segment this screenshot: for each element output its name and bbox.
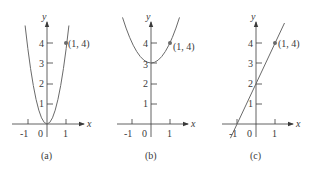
panel-caption: (c) — [250, 150, 261, 162]
y-tick-label: 1 — [248, 98, 253, 109]
y-tick-label: 3 — [248, 58, 253, 69]
x-tick-label: -1 — [229, 128, 237, 139]
y-tick-label: 1 — [143, 98, 148, 109]
y-tick-label: 2 — [39, 78, 44, 89]
x-axis-label: x — [295, 118, 301, 129]
panel-caption: (b) — [145, 150, 157, 162]
y-tick-label: 3 — [39, 58, 44, 69]
y-tick-label: 4 — [143, 38, 148, 49]
x-axis-label: x — [86, 118, 92, 129]
point-marker — [168, 41, 172, 45]
point-label: (1, 4) — [68, 38, 90, 50]
y-tick-label: 2 — [143, 78, 148, 89]
y-tick-label: 4 — [248, 38, 253, 49]
x-tick-label: 1 — [272, 128, 277, 139]
line-curve — [230, 23, 284, 138]
x-tick-label: 0 — [38, 128, 43, 139]
x-tick-label: -1 — [20, 128, 28, 139]
x-axis-label: x — [190, 118, 196, 129]
y-axis-label: y — [41, 11, 47, 22]
point-label: (1, 4) — [278, 38, 300, 50]
panel-c: y x -1 0 1 1 2 3 4 (1, 4) (c) — [222, 11, 301, 162]
panel-caption: (a) — [41, 150, 52, 162]
x-tick-label: 1 — [63, 128, 68, 139]
y-axis-label: y — [145, 11, 151, 22]
x-tick-label: 0 — [247, 128, 252, 139]
y-axis-label: y — [250, 11, 256, 22]
y-tick-label: 2 — [248, 78, 253, 89]
point-label: (1, 4) — [173, 41, 195, 53]
panel-a: y x -1 0 1 1 2 3 4 (1, 4) (a) — [12, 11, 92, 162]
panel-b: y x -1 0 1 1 2 3 4 (1, 4) (b) — [117, 11, 196, 162]
y-tick-label: 1 — [39, 98, 44, 109]
x-tick-label: -1 — [124, 128, 132, 139]
figure-canvas: y x -1 0 1 1 2 3 4 (1, 4) (a) y x -1 0 1… — [0, 0, 311, 169]
y-tick-label: 4 — [39, 38, 44, 49]
y-tick-label: 3 — [143, 59, 148, 70]
x-tick-label: 0 — [142, 128, 147, 139]
x-tick-label: 1 — [167, 128, 172, 139]
point-marker — [273, 41, 277, 45]
